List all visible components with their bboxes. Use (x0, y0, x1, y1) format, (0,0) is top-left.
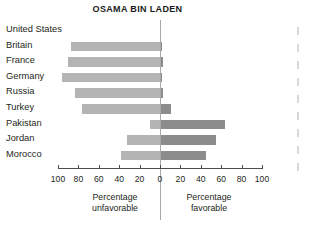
chart-row: Turkey (0, 101, 275, 117)
bar-unfavorable (68, 57, 160, 67)
row-bars (0, 54, 275, 70)
bar-unfavorable (71, 42, 160, 52)
chart-row: Morocco (0, 148, 275, 164)
bar-unfavorable (127, 135, 160, 145)
caption-favorable-line1: Percentage (187, 192, 232, 203)
axis-tick-label: 100 (51, 174, 65, 184)
bar-favorable (160, 120, 225, 130)
axis-tick-label: 40 (196, 174, 206, 184)
bar-unfavorable (82, 104, 160, 114)
axis-tick-label: 20 (135, 174, 145, 184)
caption-unfavorable-line1: Percentage (92, 192, 138, 203)
bar-favorable (160, 135, 216, 145)
caption-favorable: Percentage favorable (187, 192, 232, 213)
adjacent-panel-clipped (296, 23, 309, 173)
chart-title: OSAMA BIN LADEN (0, 4, 275, 14)
chart-row: Britain (0, 39, 275, 55)
caption-unfavorable-line2: unfavorable (92, 203, 138, 214)
bar-unfavorable (121, 151, 160, 161)
axis-tick-label: 60 (216, 174, 226, 184)
chart-row: Pakistan (0, 117, 275, 133)
row-bars (0, 148, 275, 164)
axis-tick-label: 100 (255, 174, 269, 184)
chart-row: Germany (0, 70, 275, 86)
row-bars (0, 132, 275, 148)
chart-row: France (0, 54, 275, 70)
bar-unfavorable (150, 120, 160, 130)
chart-row: Russia (0, 85, 275, 101)
axis-tick (180, 165, 181, 169)
axis-tick (119, 165, 120, 169)
caption-unfavorable: Percentage unfavorable (92, 192, 138, 213)
axis-tick (221, 165, 222, 169)
plot-area: United StatesBritainFranceGermanyRussiaT… (0, 23, 275, 168)
row-bars (0, 101, 275, 117)
axis-tick-label: 80 (74, 174, 84, 184)
chart-container: OSAMA BIN LADEN United StatesBritainFran… (0, 0, 309, 225)
row-bars (0, 85, 275, 101)
bar-favorable (160, 151, 206, 161)
bar-unfavorable (75, 88, 160, 98)
row-bars (0, 117, 275, 133)
axis-tick (99, 165, 100, 169)
axis-tick (242, 165, 243, 169)
axis-tick (201, 165, 202, 169)
axis-tick (58, 165, 59, 169)
bar-unfavorable (62, 73, 160, 83)
axis-tick-label: 60 (94, 174, 104, 184)
row-bars (0, 70, 275, 86)
axis-tick (78, 165, 79, 169)
bar-favorable (160, 104, 171, 114)
axis-tick (160, 165, 161, 169)
row-bars (0, 39, 275, 55)
axis-tick-label: 80 (237, 174, 247, 184)
zero-axis-line (160, 20, 161, 220)
row-bars (0, 23, 275, 39)
caption-favorable-line2: favorable (187, 203, 232, 214)
chart-row: Jordan (0, 132, 275, 148)
axis-tick (262, 165, 263, 169)
axis-tick-label: 40 (114, 174, 124, 184)
axis-tick-label: 0 (158, 174, 163, 184)
chart-row: United States (0, 23, 275, 39)
axis-tick (140, 165, 141, 169)
axis-tick-label: 20 (176, 174, 186, 184)
